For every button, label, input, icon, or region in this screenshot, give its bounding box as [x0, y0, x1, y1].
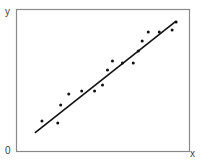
data-point [80, 89, 83, 92]
data-point [111, 59, 114, 62]
data-point [101, 83, 104, 86]
data-point [106, 69, 109, 72]
data-point [40, 120, 43, 123]
y-axis-label: y [5, 6, 10, 17]
data-point [171, 29, 174, 32]
data-point [59, 103, 62, 106]
data-point [93, 89, 96, 92]
scatter-chart: y 0 x [0, 0, 222, 163]
data-point [147, 31, 150, 34]
data-point [67, 93, 70, 96]
data-point [141, 39, 144, 42]
x-axis-label: x [190, 148, 195, 159]
data-point [132, 61, 135, 64]
origin-label: 0 [5, 145, 11, 156]
data-point [56, 122, 59, 125]
